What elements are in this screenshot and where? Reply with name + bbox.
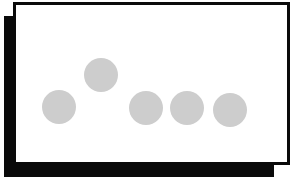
circle-2 bbox=[84, 58, 118, 92]
circle-5 bbox=[213, 93, 247, 127]
circle-4 bbox=[170, 91, 204, 125]
circle-3 bbox=[129, 91, 163, 125]
panel-frame bbox=[13, 2, 290, 165]
circle-1 bbox=[42, 90, 76, 124]
